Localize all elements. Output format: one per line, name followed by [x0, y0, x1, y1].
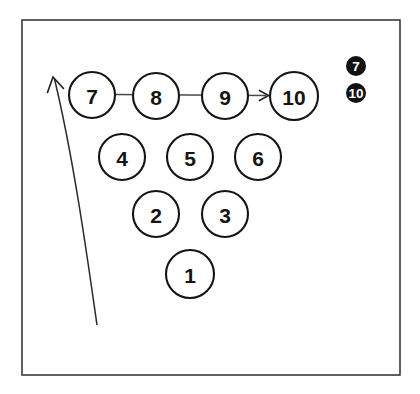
node-label: 10 [282, 86, 305, 109]
node-label: 2 [150, 204, 162, 227]
node-label: 5 [184, 147, 196, 170]
legend-item-7: 7 [346, 56, 366, 76]
node-10[interactable]: 10 [270, 72, 318, 120]
legend-label: 7 [352, 59, 360, 74]
diagram-canvas: 7 8 9 10 4 5 [0, 0, 420, 394]
node-group: 7 8 9 10 4 5 [69, 72, 318, 298]
legend-item-10: 10 [346, 83, 366, 103]
node-8[interactable]: 8 [133, 73, 179, 119]
node-label: 1 [184, 264, 196, 287]
node-label: 3 [219, 204, 231, 227]
node-label: 8 [150, 86, 162, 109]
node-4[interactable]: 4 [99, 134, 145, 180]
node-label: 7 [86, 85, 98, 108]
node-2[interactable]: 2 [133, 191, 179, 237]
node-9[interactable]: 9 [202, 73, 248, 119]
node-3[interactable]: 3 [202, 191, 248, 237]
legend-label: 10 [348, 86, 363, 101]
node-6[interactable]: 6 [235, 134, 281, 180]
diagram-svg: 7 8 9 10 4 5 [0, 0, 420, 394]
node-label: 9 [219, 86, 231, 109]
legend: 7 10 [346, 56, 366, 103]
node-5[interactable]: 5 [167, 134, 213, 180]
node-label: 6 [252, 147, 264, 170]
node-label: 4 [116, 147, 128, 170]
node-7[interactable]: 7 [69, 72, 115, 118]
node-1[interactable]: 1 [166, 250, 214, 298]
